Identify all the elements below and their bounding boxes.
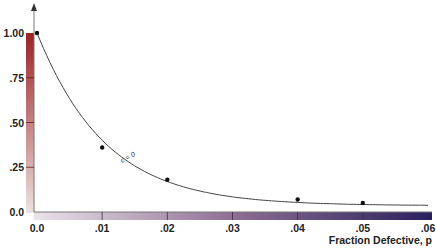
y-tick-label: 1.00 <box>4 27 25 39</box>
data-point-marker <box>35 31 39 35</box>
data-points <box>35 31 365 205</box>
x-axis-title: Fraction Defective, p <box>329 234 432 246</box>
data-point-marker <box>295 197 299 201</box>
data-point-marker <box>361 201 365 205</box>
y-tick-label: .75 <box>9 72 24 84</box>
y-tick-label: .25 <box>9 161 24 173</box>
y-tick-label: .50 <box>9 117 24 129</box>
y-axis-arrow-icon <box>31 3 37 11</box>
data-point-marker <box>165 178 169 182</box>
x-tick-label: .02 <box>160 222 175 234</box>
x-tick-label: .03 <box>225 222 240 234</box>
x-axis-bar <box>34 212 432 220</box>
x-tick-label: .04 <box>290 222 305 234</box>
data-point-marker <box>100 145 104 149</box>
x-tick-label: .01 <box>95 222 110 234</box>
x-tick-label: 0.0 <box>30 222 45 234</box>
oc-curve <box>37 33 428 205</box>
x-tick-label: .05 <box>356 222 371 234</box>
y-axis-bar <box>26 33 34 213</box>
x-tick-label: .06 <box>421 222 436 234</box>
y-tick-label: 0.0 <box>9 206 24 218</box>
oc-curve-chart: 0.0.25.50.751.00 0.0.01.02.03.04.05.06 c… <box>0 0 436 250</box>
